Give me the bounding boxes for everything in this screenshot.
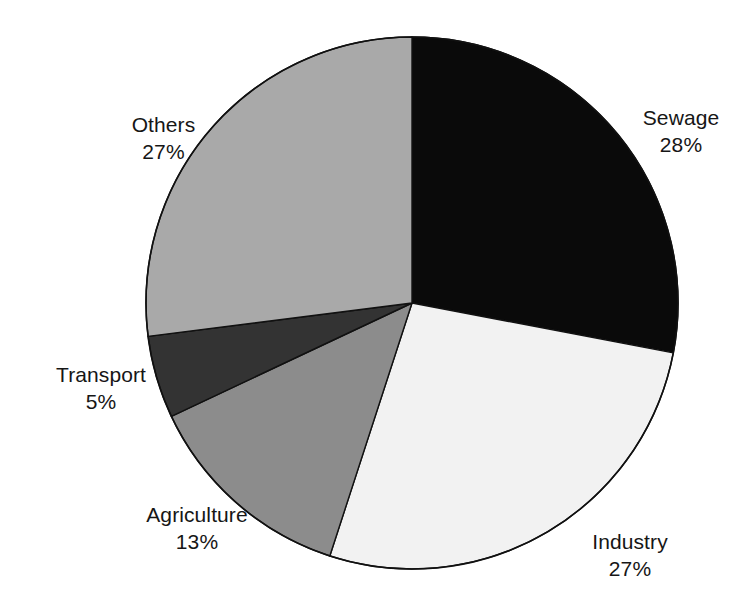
pie-label-transport: Transport 5% [18,362,184,416]
pie-label-transport-name: Transport [18,362,184,389]
pie-label-industry: Industry 27% [555,529,705,583]
pie-label-agriculture: Agriculture 13% [104,502,290,556]
pie-label-industry-value: 27% [555,556,705,583]
pie-slice-others [146,37,412,336]
pie-label-industry-name: Industry [555,529,705,556]
pie-label-others-name: Others [90,112,237,139]
pie-label-agriculture-name: Agriculture [104,502,290,529]
pie-label-sewage: Sewage 28% [617,105,745,159]
pie-label-agriculture-value: 13% [104,529,290,556]
pie-label-others: Others 27% [90,112,237,166]
pie-label-sewage-value: 28% [617,132,745,159]
chart-page: Sewage 28% Industry 27% Agriculture 13% … [0,0,745,611]
pie-label-others-value: 27% [90,139,237,166]
pie-label-sewage-name: Sewage [617,105,745,132]
pie-label-transport-value: 5% [18,389,184,416]
pie-slice-sewage [412,37,678,353]
